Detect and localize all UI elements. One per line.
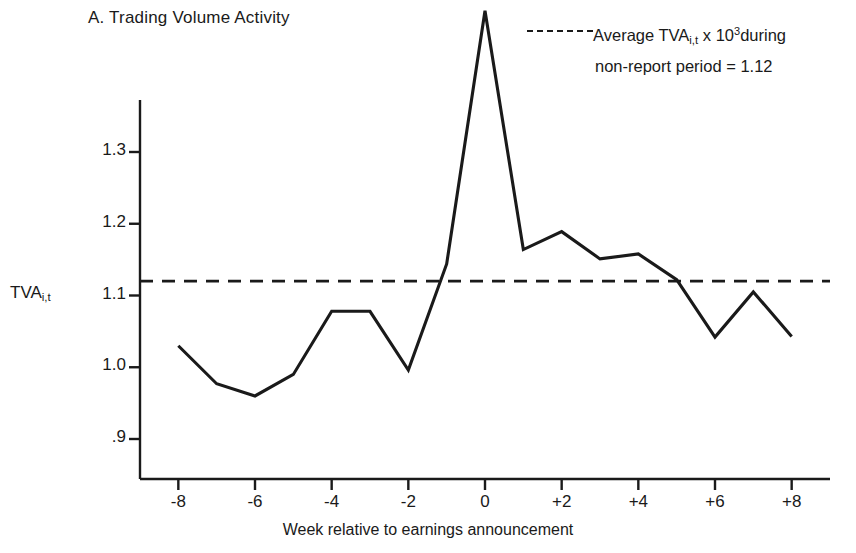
y-tick-label: 1.3 — [66, 140, 126, 160]
x-tick-label: -8 — [153, 492, 203, 512]
x-tick-label: +2 — [537, 492, 587, 512]
x-tick-label: +8 — [767, 492, 817, 512]
y-tick-marks — [129, 152, 140, 439]
x-tick-label: -6 — [230, 492, 280, 512]
y-tick-label: 1.0 — [66, 355, 126, 375]
x-tick-label: 0 — [460, 492, 510, 512]
y-tick-label: .9 — [66, 427, 126, 447]
y-tick-label: 1.2 — [66, 212, 126, 232]
figure-trading-volume-activity: A. Trading Volume Activity Average TVAi,… — [0, 0, 856, 553]
x-tick-label: +6 — [690, 492, 740, 512]
x-tick-label: -2 — [383, 492, 433, 512]
tva-series-line — [178, 11, 791, 396]
x-tick-label: -4 — [307, 492, 357, 512]
x-tick-marks — [178, 479, 791, 490]
y-tick-label: 1.1 — [66, 284, 126, 304]
plot-area — [0, 0, 856, 553]
x-tick-label: +4 — [613, 492, 663, 512]
